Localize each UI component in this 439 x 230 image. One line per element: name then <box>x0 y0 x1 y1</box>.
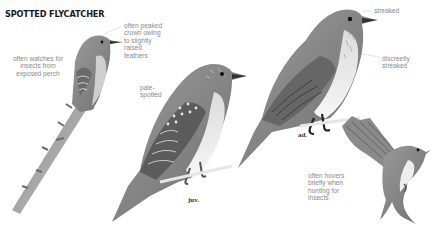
annotation-streaked: streaked <box>374 7 399 14</box>
perched-bird <box>72 36 123 113</box>
annotation-discreetly-streaked: discreetly streaked <box>382 55 410 70</box>
label-juvenile: juv. <box>188 196 199 204</box>
hovering-bird <box>342 116 431 224</box>
juvenile-bird <box>112 64 247 222</box>
branch-perch <box>12 100 94 214</box>
annotation-perch: often watches for insects from exposed p… <box>7 55 69 77</box>
annotation-crown: often peaked crown owing to slightly rai… <box>124 22 162 59</box>
label-adult: ad. <box>298 131 307 139</box>
annotation-hovers: often hovers briefly when hunting for in… <box>308 172 344 202</box>
illustration <box>0 0 439 230</box>
annotation-pale-spotted: pale- spotted <box>140 84 162 99</box>
